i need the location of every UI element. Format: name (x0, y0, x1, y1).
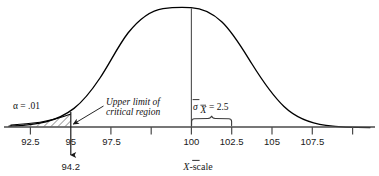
chart-background (0, 0, 379, 176)
x-tick-label-92-5: 92.5 (21, 136, 40, 147)
x-tick-label-105: 105 (264, 136, 280, 147)
axis-title-rest: -scale (189, 161, 213, 172)
sigma-symbol: σ (193, 102, 198, 112)
x-tick-label-107-5: 107.5 (300, 136, 324, 147)
x-tick-label-97-5: 97.5 (102, 136, 121, 147)
callout-line-2: critical region (106, 107, 161, 117)
callout-line-1: Upper limit of (106, 97, 161, 107)
x-axis-title: X-scale (182, 160, 213, 172)
alpha-label: α = .01 (13, 101, 40, 111)
critical-limit-value: 94.2 (62, 161, 81, 172)
sigma-subscript: X (200, 105, 208, 115)
sigma-value: = 2.5 (209, 102, 229, 112)
x-tick-label-95: 95 (66, 136, 77, 147)
x-tick-label-100: 100 (183, 136, 199, 147)
x-tick-label-102-5: 102.5 (220, 136, 244, 147)
normal-distribution-chart: α = .01 Upper limit of critical region σ… (0, 0, 379, 176)
svg-text:X-scale: X-scale (182, 161, 213, 172)
